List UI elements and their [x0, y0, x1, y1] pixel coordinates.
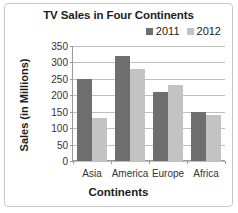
bar-group [111, 46, 149, 161]
bar-europe-2012 [168, 85, 183, 161]
x-tick-mark [187, 161, 188, 164]
legend-label-2012: 2012 [197, 26, 221, 37]
chart-title: TV Sales in Four Continents [5, 9, 232, 21]
bar-group [149, 46, 187, 161]
bar-europe-2011 [153, 92, 168, 161]
bar-america-2011 [115, 56, 130, 161]
y-axis-title: Sales (in Millions) [17, 50, 31, 160]
bar-america-2012 [130, 69, 145, 161]
legend-item-2011: 2011 [146, 26, 180, 37]
y-tick-label: 300 [51, 57, 68, 68]
legend-label-2011: 2011 [156, 26, 180, 37]
y-axis-title-text: Sales (in Millions) [18, 59, 30, 152]
y-tick-label: 50 [57, 139, 68, 150]
x-tick-mark [73, 161, 74, 164]
chart-frame: TV Sales in Four Continents 2011 2012 Sa… [4, 3, 233, 207]
x-tick-label-america: America [112, 168, 149, 179]
x-tick-label-europe: Europe [152, 168, 184, 179]
legend-swatch-icon-2011 [146, 28, 153, 35]
x-tick-label-africa: Africa [193, 168, 219, 179]
y-tick-label: 0 [62, 156, 68, 167]
y-tick-label: 150 [51, 106, 68, 117]
bar-group [187, 46, 225, 161]
bar-africa-2012 [206, 115, 221, 161]
legend-item-2012: 2012 [187, 26, 221, 37]
x-axis-title: Continents [5, 186, 232, 198]
y-tick-label: 250 [51, 73, 68, 84]
y-tick-label: 200 [51, 90, 68, 101]
x-tick-mark [149, 161, 150, 164]
bar-group [73, 46, 111, 161]
x-tick-mark [225, 161, 226, 164]
y-tick-label: 100 [51, 123, 68, 134]
bar-asia-2012 [92, 118, 107, 161]
plot-area: 050100150200250300350 AsiaAmericaEuropeA… [73, 46, 225, 161]
bar-africa-2011 [191, 112, 206, 161]
x-tick-mark [111, 161, 112, 164]
y-tick-label: 350 [51, 41, 68, 52]
legend-swatch-icon-2012 [187, 28, 194, 35]
chart-legend: 2011 2012 [146, 26, 221, 37]
bar-asia-2011 [77, 79, 92, 161]
x-tick-label-asia: Asia [82, 168, 101, 179]
